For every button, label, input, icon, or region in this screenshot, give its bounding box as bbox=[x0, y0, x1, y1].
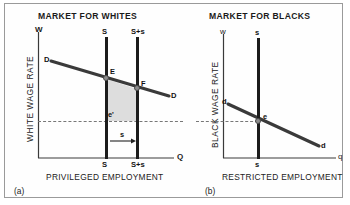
supply-bottom-label-shifted-whites: S+s bbox=[131, 160, 145, 169]
supply-bottom-label-blacks: s bbox=[255, 160, 259, 169]
demand-label-right-whites: D bbox=[171, 91, 176, 100]
equilibrium-point-E bbox=[103, 75, 109, 81]
equilibrium-point-e bbox=[255, 118, 261, 124]
supply-shift-label: s bbox=[120, 130, 124, 139]
y-axis-title-blacks: BLACK WAGE RATE bbox=[210, 61, 220, 148]
equilibrium-point-F bbox=[134, 85, 140, 91]
y-axis-symbol-blacks: w bbox=[220, 27, 226, 36]
y-axis-title-whites: WHITE WAGE RATE bbox=[25, 56, 35, 142]
x-axis-title-whites: PRIVILEGED EMPLOYMENT bbox=[46, 172, 164, 182]
wage-reference-line-whites bbox=[38, 121, 183, 122]
point-label-e: e bbox=[263, 112, 267, 121]
point-label-F: F bbox=[141, 79, 146, 88]
demand-label-right-blacks: d bbox=[321, 141, 326, 150]
subfigure-label-a: (a) bbox=[14, 186, 24, 196]
supply-top-label-shifted-whites: S+s bbox=[131, 27, 145, 36]
x-axis-symbol-whites: Q bbox=[177, 152, 183, 161]
subfigure-label-b: (b) bbox=[205, 186, 215, 196]
supply-line-blacks bbox=[257, 38, 260, 159]
supply-line-original-whites bbox=[105, 37, 108, 159]
supply-line-shifted-whites bbox=[136, 37, 139, 159]
panel-a-title: MARKET FOR WHITES bbox=[38, 11, 137, 21]
demand-label-left-whites: D bbox=[44, 55, 49, 64]
x-axis-symbol-blacks: q bbox=[338, 152, 342, 161]
figure-root: MARKET FOR WHITES MARKET FOR BLACKS W Q … bbox=[0, 0, 350, 205]
y-axis-symbol-whites: W bbox=[35, 25, 43, 34]
point-label-E: E bbox=[110, 67, 115, 76]
figure-frame bbox=[4, 3, 343, 198]
demand-label-left-blacks: d bbox=[222, 97, 227, 106]
wage-reference-line-blacks bbox=[196, 121, 258, 122]
supply-bottom-label-original-whites: S bbox=[102, 160, 107, 169]
supply-top-label-original-whites: S bbox=[102, 27, 107, 36]
point-label-e-prime: e' bbox=[108, 110, 114, 119]
x-axis-title-blacks: RESTRICTED EMPLOYMENT bbox=[222, 172, 343, 182]
supply-top-label-blacks: s bbox=[255, 28, 259, 37]
panel-b-title: MARKET FOR BLACKS bbox=[209, 11, 310, 21]
